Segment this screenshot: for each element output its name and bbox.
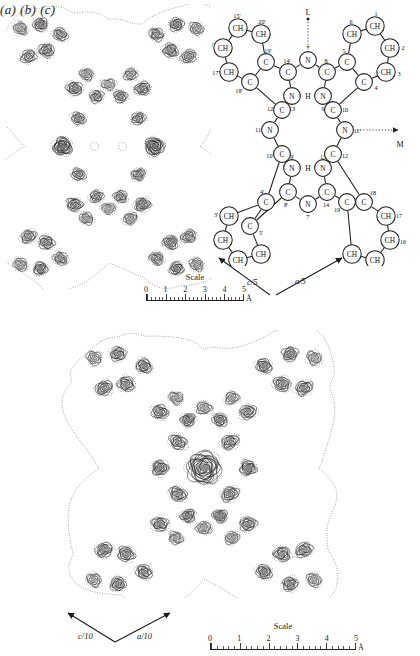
atom-13: N bbox=[284, 88, 301, 105]
contour-ring bbox=[40, 268, 42, 270]
atom-symbol: C bbox=[362, 198, 367, 207]
contour-ring bbox=[228, 440, 233, 444]
scale-c-tick-5 bbox=[355, 643, 356, 649]
atom-number: 10' bbox=[266, 152, 273, 159]
bond bbox=[247, 256, 253, 257]
axis-arrow-a-over-5 bbox=[272, 250, 350, 298]
contour-ring bbox=[75, 115, 84, 122]
contour-ring bbox=[76, 117, 81, 121]
contour-ring bbox=[175, 537, 177, 539]
contour-ring bbox=[19, 264, 21, 266]
bond bbox=[387, 57, 388, 63]
scale-c-label-4: 4 bbox=[325, 634, 329, 643]
contour-ring bbox=[46, 50, 48, 52]
atom-7: N bbox=[300, 52, 317, 69]
bond bbox=[289, 177, 290, 183]
scale-a-minor-tick bbox=[182, 297, 183, 300]
contour-map-panel-a bbox=[6, 4, 211, 289]
scale-a-label-2: 2 bbox=[183, 285, 187, 294]
contour-ring bbox=[177, 441, 179, 443]
contour-ring bbox=[187, 515, 189, 517]
contour-ring bbox=[247, 467, 249, 469]
scale-a-minor-tick bbox=[159, 297, 160, 300]
bond bbox=[228, 247, 232, 253]
bond bbox=[316, 65, 320, 67]
scale-bar-c-unit: Å bbox=[358, 643, 364, 652]
contour-ring bbox=[281, 383, 283, 385]
atom-symbol: CH bbox=[224, 212, 235, 221]
scale-c-minor-tick bbox=[234, 646, 235, 649]
scale-c-minor-tick bbox=[263, 646, 264, 649]
atom-symbol: CH bbox=[224, 68, 235, 77]
bond bbox=[225, 57, 227, 64]
axis-label-a-over-10: a/10 bbox=[137, 631, 152, 641]
contour-ring bbox=[103, 549, 105, 551]
contour-ring bbox=[303, 549, 305, 551]
bond bbox=[275, 118, 278, 123]
bond bbox=[257, 88, 275, 104]
scale-a-label-1: 1 bbox=[164, 285, 168, 294]
contour-ring bbox=[117, 353, 119, 355]
atom-symbol: C bbox=[248, 78, 253, 87]
contour-ring bbox=[313, 579, 315, 581]
bond bbox=[296, 197, 301, 200]
contour-ring bbox=[203, 527, 205, 529]
atom-symbol: N bbox=[320, 92, 326, 101]
bond bbox=[237, 76, 242, 78]
scale-c-minor-tick bbox=[251, 646, 252, 649]
scale-c-minor-tick bbox=[349, 646, 350, 649]
scale-c-minor-tick bbox=[223, 646, 224, 649]
scale-bar-c-title: Scale bbox=[274, 621, 292, 631]
atom-17p: CH bbox=[220, 63, 238, 81]
atom-symbol: C bbox=[248, 222, 253, 231]
atom-number: 14 bbox=[323, 201, 329, 208]
contour-ring bbox=[26, 235, 31, 239]
atom-7p: N bbox=[300, 196, 317, 213]
contour-ring bbox=[247, 411, 249, 413]
contour-ring bbox=[136, 117, 140, 121]
contour-ring bbox=[129, 218, 131, 220]
atom-19: C bbox=[339, 194, 356, 211]
scale-c-label-0: 0 bbox=[208, 634, 212, 643]
atom-symbol: C bbox=[280, 150, 285, 159]
contour-cavity-marker bbox=[119, 143, 127, 151]
contour-ring bbox=[231, 537, 233, 539]
bond bbox=[337, 138, 341, 146]
bond bbox=[237, 205, 257, 213]
atom-number: 15' bbox=[233, 12, 240, 19]
contour-ring bbox=[289, 353, 291, 355]
atom-number: 5 bbox=[342, 47, 345, 54]
contour-ring bbox=[125, 553, 127, 555]
bond bbox=[372, 207, 379, 211]
atom-symbol: N bbox=[305, 200, 311, 209]
contour-ring bbox=[85, 217, 89, 220]
atom-symbol: C bbox=[286, 188, 291, 197]
contour-ring bbox=[176, 24, 178, 26]
atom-11p: N bbox=[337, 122, 354, 139]
bond bbox=[387, 225, 388, 231]
atom-symbol: C bbox=[280, 106, 285, 115]
atom-19p: C bbox=[258, 54, 275, 71]
atom-10: C bbox=[325, 102, 342, 119]
atom-symbol: CH bbox=[233, 24, 244, 33]
scale-a-minor-tick bbox=[197, 297, 198, 300]
contour-ring bbox=[311, 355, 318, 361]
atom-16: CH bbox=[381, 231, 399, 249]
contour-ring bbox=[159, 411, 161, 413]
contour-ring bbox=[120, 96, 122, 98]
figure-root: Scale Å 012345 c/5 (a) CH15'CH20'CH16'CH… bbox=[0, 0, 420, 656]
contour-ring bbox=[129, 73, 133, 77]
scale-c-minor-tick bbox=[332, 646, 333, 649]
contour-ring bbox=[141, 88, 143, 90]
contour-ring bbox=[136, 173, 140, 176]
contour-ring bbox=[187, 56, 189, 58]
contour-ring bbox=[141, 203, 145, 207]
contour-ring bbox=[95, 196, 97, 198]
axis-label-a-over-5: a/5 bbox=[295, 276, 306, 286]
bond bbox=[316, 197, 320, 199]
contour-ring bbox=[137, 174, 139, 176]
contour-ring bbox=[303, 387, 305, 389]
scale-a-minor-tick bbox=[174, 297, 175, 300]
bond bbox=[296, 65, 301, 68]
contour-ring bbox=[73, 204, 75, 206]
